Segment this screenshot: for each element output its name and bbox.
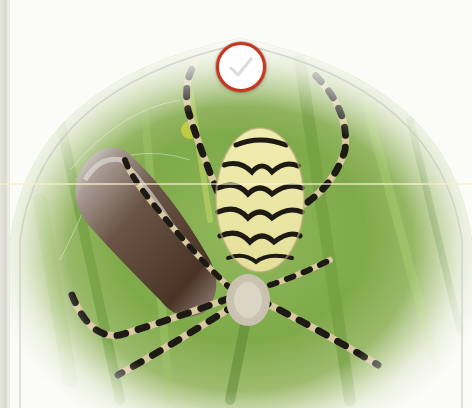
select-checkbox[interactable] — [216, 42, 266, 92]
horizontal-guide-line — [0, 183, 472, 185]
checkmark-icon — [228, 56, 254, 78]
left-edge-strip — [0, 0, 10, 408]
